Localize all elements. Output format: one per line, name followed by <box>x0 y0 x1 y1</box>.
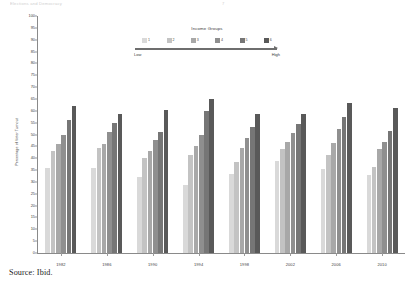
bar[interactable] <box>321 169 326 253</box>
bar[interactable] <box>347 103 352 253</box>
bar-group <box>313 16 359 253</box>
y-tick-mark <box>35 158 37 159</box>
bar[interactable] <box>291 133 296 253</box>
legend-item-label: 4 <box>221 38 223 43</box>
bar[interactable] <box>153 140 158 253</box>
x-tick-label: 2002 <box>267 262 313 272</box>
bar[interactable] <box>67 120 72 253</box>
bar[interactable] <box>255 114 260 253</box>
y-tick-mark <box>35 51 37 52</box>
bar[interactable] <box>250 127 255 253</box>
bar[interactable] <box>148 151 153 253</box>
bar[interactable] <box>72 106 77 253</box>
bar-group <box>38 16 84 253</box>
legend-low-label: Low <box>134 52 141 57</box>
bar[interactable] <box>194 146 199 253</box>
bar[interactable] <box>199 135 204 254</box>
x-axis-line <box>37 253 405 254</box>
bar[interactable] <box>51 151 56 253</box>
bar[interactable] <box>337 129 342 253</box>
bar[interactable] <box>382 142 387 253</box>
y-tick-mark <box>35 181 37 182</box>
bar[interactable] <box>107 132 112 253</box>
bar[interactable] <box>209 99 214 253</box>
bar[interactable] <box>229 174 234 253</box>
x-tick-label: 2006 <box>313 262 359 272</box>
bar[interactable] <box>285 142 290 253</box>
page-header-faded: Elections and Democracy 7 <box>10 1 260 8</box>
bar[interactable] <box>296 124 301 253</box>
x-tick-label: 1998 <box>222 262 268 272</box>
bar[interactable] <box>393 108 398 253</box>
y-tick-mark <box>35 193 37 194</box>
y-tick-mark <box>35 87 37 88</box>
x-tick-label: 2010 <box>359 262 405 272</box>
legend-item[interactable]: 1 <box>134 35 158 45</box>
bar[interactable] <box>342 117 347 253</box>
bar[interactable] <box>102 144 107 253</box>
bar[interactable] <box>372 167 377 254</box>
x-tick-mark <box>244 253 245 256</box>
bar[interactable] <box>367 175 372 253</box>
bar[interactable] <box>45 168 50 253</box>
legend-item[interactable]: 2 <box>158 35 182 45</box>
y-tick-mark <box>35 27 37 28</box>
bar[interactable] <box>97 148 102 253</box>
bar[interactable] <box>245 138 250 253</box>
x-tick-mark <box>382 253 383 256</box>
chart-page: Elections and Democracy 7 Percentage of … <box>0 0 414 289</box>
header-text: Elections and Democracy <box>10 1 62 6</box>
bar[interactable] <box>388 131 393 253</box>
legend-items: 123456 <box>134 35 280 45</box>
y-tick-mark <box>35 16 37 17</box>
x-tick-label: 1994 <box>176 262 222 272</box>
legend-item-label: 6 <box>270 38 272 43</box>
bar[interactable] <box>56 144 61 253</box>
bar[interactable] <box>204 111 209 253</box>
bar[interactable] <box>234 162 239 253</box>
bar[interactable] <box>240 148 245 253</box>
source-note: Source: Ibid. <box>9 268 53 277</box>
y-tick-mark <box>35 146 37 147</box>
bar[interactable] <box>377 149 382 253</box>
x-tick-mark <box>290 253 291 256</box>
legend-title: Income Groups <box>132 26 282 31</box>
bar[interactable] <box>61 135 66 254</box>
legend-item[interactable]: 6 <box>256 35 280 45</box>
bar[interactable] <box>164 110 169 253</box>
bar[interactable] <box>137 177 142 253</box>
y-tick-mark <box>35 110 37 111</box>
bar[interactable] <box>112 123 117 253</box>
x-tick-mark <box>153 253 154 256</box>
bar[interactable] <box>280 149 285 253</box>
legend-swatch-icon <box>240 38 245 43</box>
legend-item[interactable]: 3 <box>183 35 207 45</box>
y-tick-mark <box>35 75 37 76</box>
x-axis-labels: 19821986199019941998200220062010 <box>38 262 405 272</box>
bar[interactable] <box>275 161 280 253</box>
y-tick-mark <box>35 253 37 254</box>
bar[interactable] <box>183 185 188 253</box>
y-tick-mark <box>35 63 37 64</box>
bar-group <box>359 16 405 253</box>
bar[interactable] <box>118 114 123 253</box>
y-tick-mark <box>35 122 37 123</box>
legend-item[interactable]: 4 <box>207 35 231 45</box>
bar[interactable] <box>326 155 331 253</box>
bar[interactable] <box>142 158 147 253</box>
bar[interactable] <box>331 143 336 253</box>
y-tick-mark <box>35 241 37 242</box>
bar[interactable] <box>158 132 163 253</box>
bar[interactable] <box>301 114 306 253</box>
voter-turnout-chart: Percentage of Voter Turnout 100959085807… <box>0 12 414 262</box>
bar[interactable] <box>91 168 96 253</box>
bar[interactable] <box>188 155 193 253</box>
legend-swatch-icon <box>191 38 196 43</box>
x-tick-mark <box>107 253 108 256</box>
x-tick-mark <box>336 253 337 256</box>
legend-item-label: 3 <box>197 38 199 43</box>
y-tick-mark <box>35 134 37 135</box>
legend-item[interactable]: 5 <box>231 35 255 45</box>
legend-item-label: 2 <box>172 38 174 43</box>
y-tick-mark <box>35 229 37 230</box>
